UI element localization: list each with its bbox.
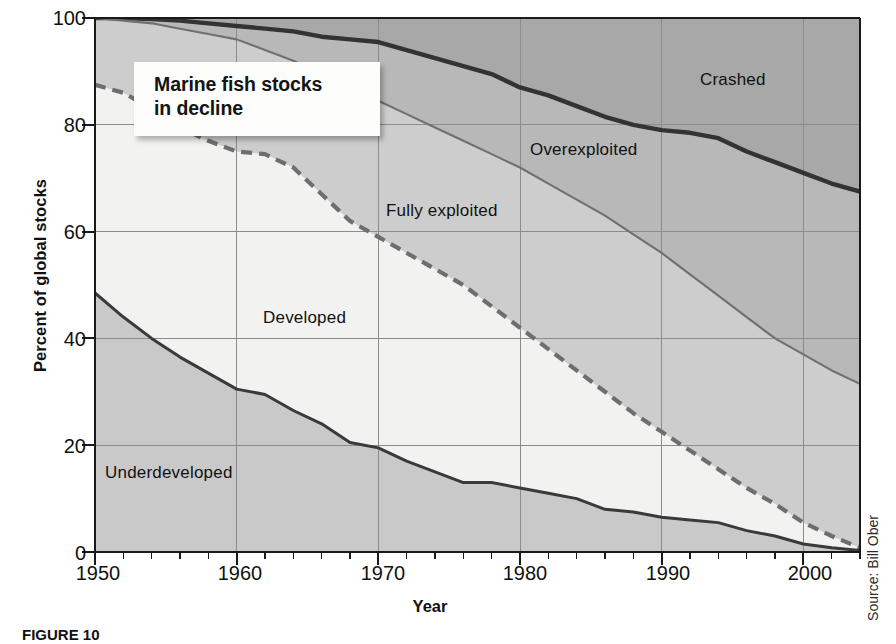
band-label-fully-exploited: Fully exploited [386,201,498,221]
y-tick-0: 0 [16,543,86,563]
y-tick-80: 80 [16,115,86,135]
band-label-overexploited: Overexploited [530,140,638,160]
x-axis-title: Year [0,597,860,616]
y-tick-60: 60 [16,222,86,242]
y-tick-40: 40 [16,329,86,349]
source-note: Source: Bill Ober [865,488,881,644]
x-tick-1960: 1960 [195,562,285,585]
y-tick-20: 20 [16,436,86,456]
band-label-underdeveloped: Underdeveloped [105,463,233,483]
x-tick-1970: 1970 [338,562,428,585]
callout-line-1: Marine fish stocks [154,72,380,96]
callout-line-2: in decline [154,96,380,120]
y-axis-title: Percent of global stocks [31,126,50,426]
x-tick-1950: 1950 [53,562,143,585]
y-tick-100: 100 [16,8,86,28]
x-tick-2000: 2000 [765,562,855,585]
band-label-crashed: Crashed [700,70,766,90]
callout-box: Marine fish stocks in decline [134,62,380,136]
figure-caption: FIGURE 10 [22,626,100,643]
x-tick-1980: 1980 [480,562,570,585]
x-tick-1990: 1990 [623,562,713,585]
band-label-developed: Developed [263,308,346,328]
